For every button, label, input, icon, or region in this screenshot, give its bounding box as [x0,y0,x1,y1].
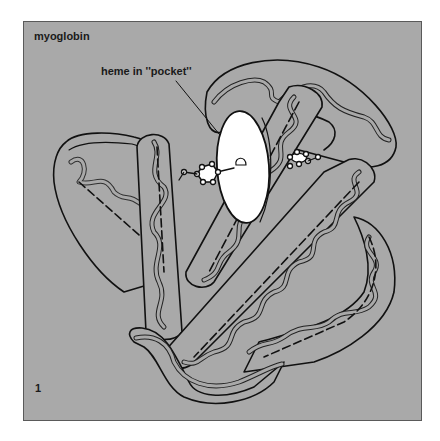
helix-B [137,135,182,340]
histidine-proximal [179,162,221,185]
figure-number: 1 [35,382,41,394]
figure-title: myoglobin [34,30,90,42]
myoglobin-illustration [24,22,423,422]
heme-annotation: heme in ''pocket'' [101,65,192,77]
figure-panel: myoglobin heme in ''pocket'' 1 [23,21,422,421]
